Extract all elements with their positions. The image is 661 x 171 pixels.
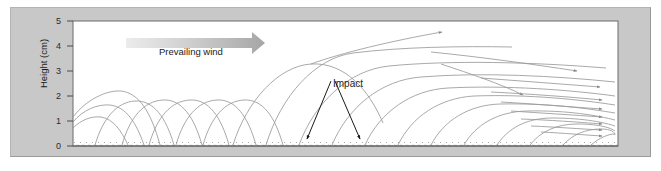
sand-bed [73,142,618,146]
y-tick-2: 2 [47,91,61,101]
y-axis-ticks [67,21,73,146]
figure-frame: Height (cm) 5 4 3 2 1 0 Prevailing wind … [10,7,651,157]
impact-label: Impact [333,78,363,89]
prevailing-wind-label: Prevailing wind [159,46,223,57]
trajectory-plot [11,8,652,158]
y-tick-3: 3 [47,66,61,76]
y-tick-0: 0 [47,141,61,151]
y-tick-4: 4 [47,41,61,51]
y-tick-5: 5 [47,16,61,26]
saltation-figure: Height (cm) 5 4 3 2 1 0 Prevailing wind … [0,0,661,171]
y-tick-1: 1 [47,116,61,126]
